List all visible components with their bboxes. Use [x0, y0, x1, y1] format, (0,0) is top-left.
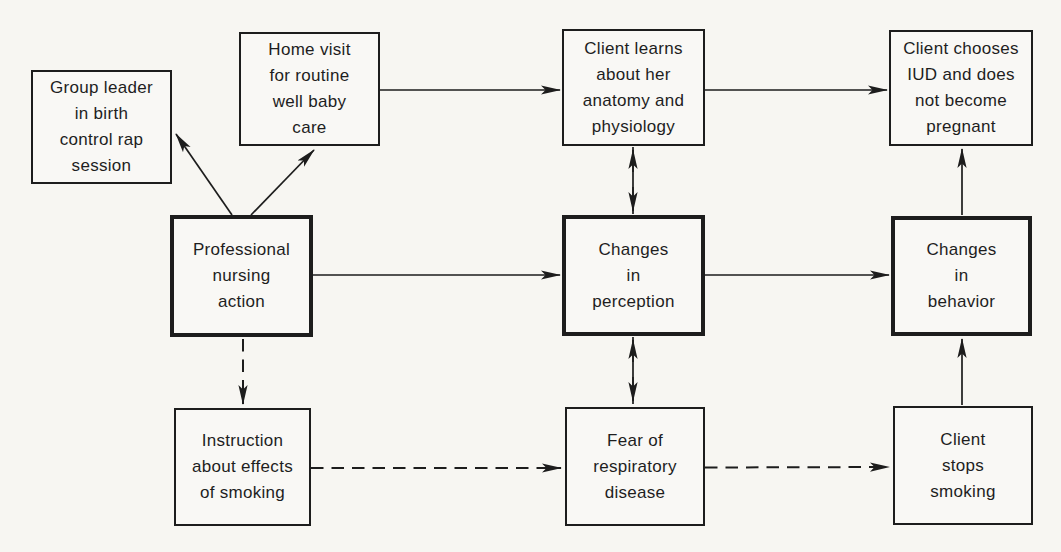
box-client-learns: Client learns about her anatomy and phys…: [562, 29, 705, 146]
box-professional-nursing-action: Professional nursing action: [170, 215, 313, 337]
box-client-stops-smoking: Client stops smoking: [893, 406, 1033, 525]
box-label: Instruction about effects of smoking: [192, 428, 293, 506]
arrow-action-to-group-leader: [176, 134, 232, 215]
arrow-action-to-home-visit: [251, 150, 314, 215]
box-client-chooses-iud: Client chooses IUD and does not become p…: [889, 30, 1033, 146]
flow-diagram: Group leader in birth control rap sessio…: [0, 0, 1061, 552]
box-label: Professional nursing action: [193, 237, 290, 315]
box-label: Client learns about her anatomy and phys…: [583, 36, 685, 140]
dashed-arrow-fear-to-stops-smoking: [705, 467, 889, 468]
box-label: Home visit for routine well baby care: [268, 37, 350, 141]
box-label: Client stops smoking: [930, 427, 995, 505]
box-fear-respiratory: Fear of respiratory disease: [565, 407, 705, 526]
box-group-leader: Group leader in birth control rap sessio…: [31, 70, 172, 184]
box-label: Fear of respiratory disease: [593, 428, 677, 506]
box-instruction-smoking: Instruction about effects of smoking: [174, 408, 311, 526]
box-changes-in-perception: Changes in perception: [562, 215, 705, 336]
box-home-visit: Home visit for routine well baby care: [239, 32, 380, 146]
box-label: Group leader in birth control rap sessio…: [50, 75, 153, 179]
box-label: Changes in perception: [592, 237, 674, 315]
box-label: Client chooses IUD and does not become p…: [903, 36, 1019, 140]
box-changes-in-behavior: Changes in behavior: [891, 216, 1032, 336]
box-label: Changes in behavior: [926, 237, 996, 315]
